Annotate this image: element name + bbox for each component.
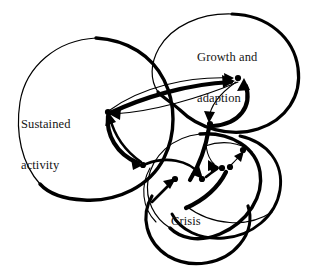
domain-label-crisis: Crisis <box>171 188 201 256</box>
domain-label-line: activity <box>21 159 71 173</box>
node-dot <box>219 165 225 171</box>
link-pair-up-to-farright <box>231 151 244 165</box>
node-dot <box>140 162 146 168</box>
domain-label-line: adaption <box>197 92 257 106</box>
node-dot <box>240 147 246 153</box>
diagram-root: Sustained activity Growth and adaption C… <box>0 0 311 274</box>
domain-label-sustained-activity: Sustained activity <box>21 91 71 199</box>
domain-label-growth-and-adaption: Growth and adaption <box>197 24 257 132</box>
domain-label-line: Sustained <box>21 118 71 132</box>
node-dot <box>172 176 178 182</box>
domain-label-line: Crisis <box>171 215 201 229</box>
node-dot <box>227 164 233 170</box>
node-dot <box>199 176 205 182</box>
node-dot <box>105 109 111 115</box>
domain-label-line: Growth and <box>197 51 257 65</box>
